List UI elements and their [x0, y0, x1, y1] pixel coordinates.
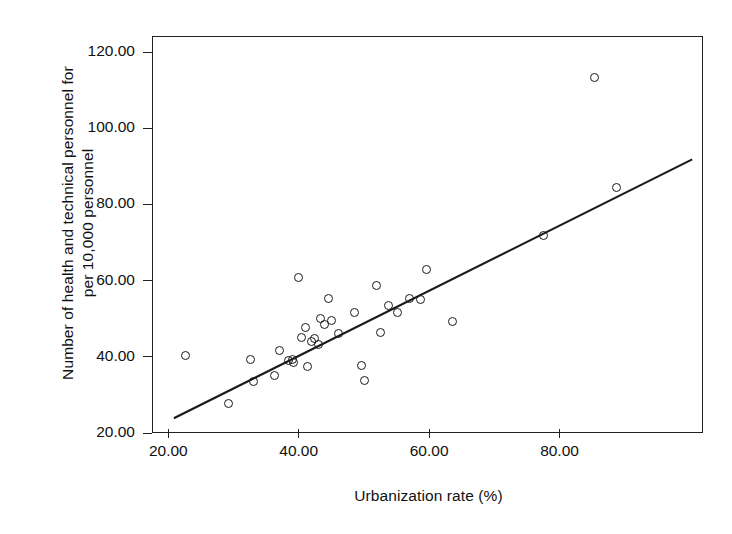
x-tick-label-text: 20.00: [123, 442, 213, 460]
x-tick-label-text: 80.00: [515, 442, 605, 460]
y-tick-label: 60.00: [45, 271, 135, 289]
scatter-plot-figure: Number of health and technical personnel…: [0, 0, 732, 534]
y-tick-label-text: 20.00: [47, 423, 135, 441]
y-tick-label: 120.00: [45, 42, 135, 60]
y-tick-mark: [143, 280, 152, 281]
x-tick-mark: [429, 429, 430, 438]
x-tick-mark: [168, 429, 169, 438]
y-tick-mark: [143, 433, 152, 434]
x-tick-mark: [559, 429, 560, 438]
x-tick-mark: [298, 429, 299, 438]
y-tick-label-text: 80.00: [47, 194, 135, 212]
y-tick-label: 80.00: [45, 194, 135, 212]
y-tick-label-text: 60.00: [47, 271, 135, 289]
x-axis-title: Urbanization rate (%): [153, 487, 704, 505]
y-tick-label: 20.00: [45, 423, 135, 441]
y-tick-label-text: 40.00: [47, 347, 135, 365]
y-tick-label-text: 120.00: [47, 42, 135, 60]
x-tick-label-text: 40.00: [254, 442, 344, 460]
x-tick-label: 20.00: [123, 442, 213, 462]
y-tick-mark: [143, 204, 152, 205]
y-tick-label: 100.00: [45, 118, 135, 136]
y-tick-label-text: 100.00: [47, 118, 135, 136]
y-tick-mark: [143, 52, 152, 53]
x-tick-label: 80.00: [515, 442, 605, 462]
x-tick-label: 40.00: [254, 442, 344, 462]
x-tick-label: 60.00: [384, 442, 474, 462]
y-tick-mark: [143, 128, 152, 129]
y-tick-mark: [143, 356, 152, 357]
x-tick-label-text: 60.00: [384, 442, 474, 460]
y-tick-label: 40.00: [45, 347, 135, 365]
plot-frame: [152, 36, 703, 433]
y-axis-title-container: Number of health and technical personnel…: [0, 0, 150, 460]
